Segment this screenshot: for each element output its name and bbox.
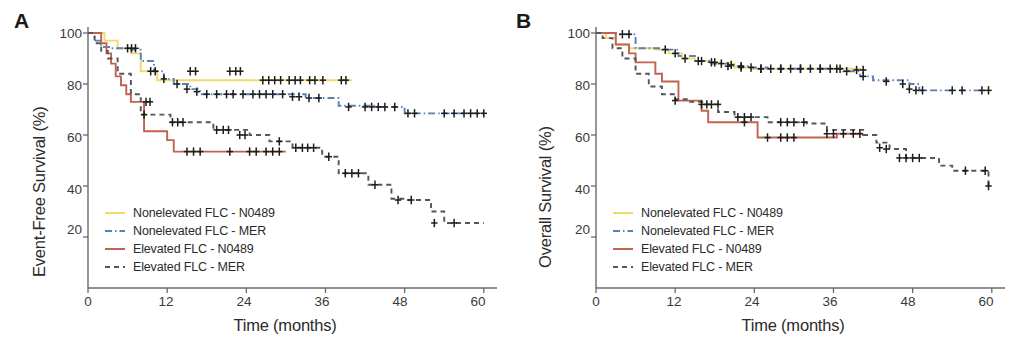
panel-a: A Event-Free Survival (%) Time (months) … [0, 0, 509, 343]
legend-label-1: Nonelevated FLC - MER [133, 224, 266, 238]
censor-marks-0 [682, 54, 867, 74]
legend-item-3: Elevated FLC - MER [612, 259, 783, 275]
legend-swatch-icon-2 [104, 242, 126, 256]
legend-label-0: Nonelevated FLC - N0489 [641, 206, 783, 220]
panel-b-legend: Nonelevated FLC - N0489Nonelevated FLC -… [612, 205, 783, 277]
legend-swatch-icon-2 [612, 242, 634, 256]
legend-swatch-icon-1 [612, 224, 634, 238]
censor-marks-3 [698, 100, 991, 190]
legend-item-3: Elevated FLC - MER [104, 259, 275, 275]
legend-label-0: Nonelevated FLC - N0489 [133, 206, 275, 220]
legend-item-1: Nonelevated FLC - MER [104, 223, 275, 239]
legend-label-3: Elevated FLC - MER [133, 260, 245, 274]
curve-3 [596, 33, 989, 186]
censor-marks-1 [619, 30, 992, 95]
panel-b-plot [508, 0, 1017, 343]
legend-item-2: Elevated FLC - N0489 [104, 241, 275, 257]
legend-item-1: Nonelevated FLC - MER [612, 223, 783, 239]
legend-item-2: Elevated FLC - N0489 [612, 241, 783, 257]
legend-swatch-icon-3 [104, 260, 126, 274]
legend-item-0: Nonelevated FLC - N0489 [612, 205, 783, 221]
legend-item-0: Nonelevated FLC - N0489 [104, 205, 275, 221]
legend-label-2: Elevated FLC - N0489 [641, 242, 762, 256]
panel-a-plot [0, 0, 509, 343]
legend-label-1: Nonelevated FLC - MER [641, 224, 774, 238]
legend-swatch-icon-3 [612, 260, 634, 274]
legend-swatch-icon-1 [104, 224, 126, 238]
panel-a-legend: Nonelevated FLC - N0489Nonelevated FLC -… [104, 205, 275, 277]
legend-label-3: Elevated FLC - MER [641, 260, 753, 274]
legend-label-2: Elevated FLC - N0489 [133, 242, 254, 256]
panel-b: B Overall Survival (%) Time (months) 100… [508, 0, 1017, 343]
curve-0 [88, 33, 352, 80]
kaplan-meier-figure: A Event-Free Survival (%) Time (months) … [0, 0, 1017, 343]
legend-swatch-icon-0 [104, 206, 126, 220]
legend-swatch-icon-0 [612, 206, 634, 220]
